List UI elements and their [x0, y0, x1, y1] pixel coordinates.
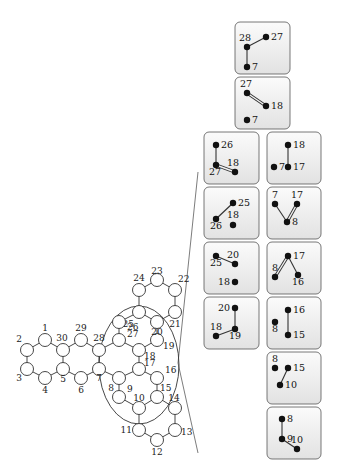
panel-node-7 — [244, 64, 250, 70]
panel-p3: 262718 — [204, 132, 259, 184]
panel-p11: 81510 — [267, 352, 321, 404]
graph-node-28 — [93, 344, 106, 357]
panel-node-label: 19 — [229, 330, 241, 341]
graph-node-6 — [75, 372, 88, 385]
graph-node-2 — [21, 344, 34, 357]
graph-node-29 — [75, 334, 88, 347]
graph-node-label: 28 — [93, 333, 105, 343]
panel-node-17 — [294, 201, 300, 207]
graph-node-label: 1 — [42, 323, 48, 333]
graph-node-8 — [113, 372, 126, 385]
panel-p5: 252018 — [204, 242, 259, 294]
panel-node-26 — [213, 142, 219, 148]
panel-node-label: 7 — [279, 161, 285, 172]
panel-node-16 — [285, 307, 291, 313]
panel-node-7 — [271, 164, 277, 170]
panel-node-25 — [230, 200, 236, 206]
graph-node-label: 15 — [160, 383, 172, 393]
graph-node-26 — [113, 316, 126, 329]
graph-node-label: 14 — [168, 393, 180, 403]
guide-line-upper — [178, 172, 198, 363]
graph-node-label: 8 — [108, 383, 114, 393]
graph-node-label: 30 — [56, 333, 68, 343]
panel-node-label: 27 — [271, 31, 283, 42]
panel-node-28 — [244, 44, 250, 50]
panel-p9: 17816 — [267, 242, 321, 294]
panel-node-27 — [244, 90, 250, 96]
panel-node-label: 10 — [291, 434, 303, 445]
graph-node-14 — [169, 402, 182, 415]
panel-node-label: 28 — [239, 32, 251, 43]
panel-node-label: 18 — [293, 139, 305, 150]
panel-node-label: 25 — [238, 197, 250, 208]
panel-node-9 — [279, 436, 285, 442]
panel-node-15 — [285, 332, 291, 338]
graph-node-label: 7 — [96, 373, 102, 383]
panel-node-label: 26 — [210, 220, 222, 231]
panel-node-label: 17 — [291, 189, 303, 200]
panel-p2: 27187 — [235, 77, 290, 129]
panel-node-label: 7 — [252, 61, 258, 72]
graph-node-25 — [133, 306, 146, 319]
panel-p4: 252618 — [204, 187, 259, 239]
panel-node-18 — [230, 222, 236, 228]
graph-node-11 — [133, 424, 146, 437]
graph-node-label: 21 — [169, 319, 180, 329]
panel-node-label: 8 — [272, 262, 278, 273]
panel-node-label: 17 — [293, 250, 305, 261]
panel-p7: 18717 — [267, 132, 321, 184]
panel-node-label: 8 — [292, 216, 298, 227]
diagram-canvas: 1234567891011121314151617181920212223242… — [0, 0, 337, 476]
graph-node-27 — [113, 334, 126, 347]
panel-node-20 — [232, 305, 238, 311]
panel-node-7 — [244, 117, 250, 123]
graph-node-16 — [151, 372, 164, 385]
panel-p6: 201819 — [204, 297, 259, 349]
graph-node-label: 2 — [16, 334, 22, 344]
graph-node-label: 6 — [78, 385, 84, 395]
panel-node-18 — [213, 333, 219, 339]
panel-node-label: 15 — [293, 329, 305, 340]
panel-node-label: 18 — [271, 100, 283, 111]
panel-p10: 16815 — [267, 297, 321, 349]
graph-node-label: 9 — [127, 384, 133, 394]
panel-node-10 — [294, 446, 300, 452]
graph-node-22 — [169, 284, 182, 297]
panel-node-label: 10 — [285, 379, 297, 390]
graph-node-label: 20 — [151, 327, 163, 337]
panel-p1: 28277 — [235, 22, 290, 74]
panel-node-20 — [232, 261, 238, 267]
graph-node-13 — [169, 424, 182, 437]
graph-node-label: 16 — [165, 365, 177, 375]
graph-node-12 — [151, 434, 164, 447]
panel-node-label: 17 — [293, 161, 305, 172]
panel-node-label: 8 — [287, 413, 293, 424]
panel-node-label: 8 — [272, 353, 278, 364]
graph-node-label: 10 — [133, 393, 145, 403]
panel-node-label: 18 — [218, 276, 230, 287]
panel-node-18 — [232, 169, 238, 175]
graph-node-label: 22 — [178, 274, 189, 284]
graph-node-label: 5 — [60, 374, 66, 384]
panel-box — [267, 407, 321, 459]
panel-node-label: 7 — [272, 189, 278, 200]
panel-node-17 — [285, 253, 291, 259]
panel-node-label: 20 — [218, 302, 230, 313]
graph-node-label: 18 — [144, 351, 156, 361]
panel-node-label: 27 — [240, 78, 252, 89]
panel-node-7 — [272, 201, 278, 207]
panel-node-label: 27 — [209, 166, 221, 177]
subgraph-panels: 2827727187262718252618252018201819187177… — [204, 22, 321, 459]
graph-node-9 — [113, 391, 126, 404]
panel-node-label: 16 — [292, 276, 304, 287]
panel-node-8 — [284, 219, 290, 225]
graph-node-4 — [39, 372, 52, 385]
panel-node-8 — [272, 365, 278, 371]
panel-node-15 — [285, 365, 291, 371]
panel-node-8 — [272, 274, 278, 280]
panel-node-label: 18 — [227, 209, 239, 220]
panel-node-8 — [279, 416, 285, 422]
graph-node-label: 12 — [151, 447, 162, 457]
graph-node-label: 11 — [121, 425, 132, 435]
panel-node-label: 7 — [252, 114, 258, 125]
